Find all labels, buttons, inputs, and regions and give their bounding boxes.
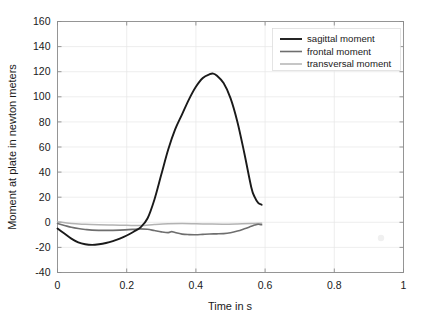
legend-label-transversal[interactable]: transversal moment xyxy=(307,58,392,69)
legend-label-frontal[interactable]: frontal moment xyxy=(307,46,371,57)
x-tick-label: 1 xyxy=(401,279,407,291)
y-tick-label: 0 xyxy=(45,216,51,228)
x-tick-label: 0 xyxy=(55,279,61,291)
y-tick-label: 100 xyxy=(33,90,51,102)
y-tick-label: 80 xyxy=(39,116,51,128)
x-tick-label: 0.6 xyxy=(258,279,273,291)
y-tick-labels: -40-20020406080100120140160 xyxy=(33,15,51,278)
y-tick-label: -20 xyxy=(35,241,50,253)
y-axis-title: Moment at plate in newton meters xyxy=(6,64,18,230)
y-tick-label: 20 xyxy=(39,191,51,203)
series-line-frontal xyxy=(58,224,262,235)
figure-canvas: 00.20.40.60.81 -40-200204060801001201401… xyxy=(0,0,421,326)
legend-label-sagittal[interactable]: sagittal moment xyxy=(307,33,375,44)
series-line-sagittal xyxy=(58,73,262,244)
y-tick-label: -40 xyxy=(35,266,50,278)
x-tick-labels: 00.20.40.60.81 xyxy=(55,279,407,291)
y-tick-label: 60 xyxy=(39,141,51,153)
x-axis-title: Time in s xyxy=(208,300,253,312)
y-tick-label: 120 xyxy=(33,65,51,77)
x-tick-label: 0.8 xyxy=(327,279,342,291)
chart-plot: 00.20.40.60.81 -40-200204060801001201401… xyxy=(0,0,421,326)
compression-artifact xyxy=(378,235,384,241)
y-tick-label: 160 xyxy=(33,15,51,27)
chart-legend[interactable]: sagittal momentfrontal momenttransversal… xyxy=(273,29,401,71)
x-tick-label: 0.4 xyxy=(189,279,204,291)
data-series xyxy=(58,73,262,244)
y-tick-label: 40 xyxy=(39,166,51,178)
x-tick-label: 0.2 xyxy=(119,279,134,291)
y-tick-label: 140 xyxy=(33,40,51,52)
